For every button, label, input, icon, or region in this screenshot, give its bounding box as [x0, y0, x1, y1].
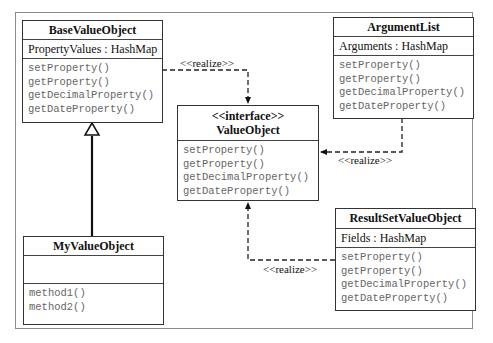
method: getProperty() [28, 76, 162, 90]
attribute: Arguments : HashMap [339, 39, 448, 53]
realize-base-to-valueobject [162, 70, 248, 103]
realize-label: <<realize>> [180, 57, 234, 69]
method: getProperty() [341, 265, 475, 279]
class-methods: method1() method2() [24, 284, 163, 314]
class-attributes-empty [24, 256, 163, 284]
class-name: ArgumentList [334, 18, 473, 37]
class-name: ResultSetValueObject [336, 209, 475, 229]
method: getDateProperty() [341, 292, 475, 306]
method: getDateProperty() [339, 100, 473, 114]
class-result-set-value-object[interactable]: ResultSetValueObject Fields : HashMap se… [335, 208, 476, 311]
stereotype: <<interface>> [178, 109, 318, 123]
realize-argumentlist-to-valueobject [321, 118, 402, 152]
class-methods: setProperty() getProperty() getDecimalPr… [23, 59, 162, 116]
attribute: Fields : HashMap [341, 231, 426, 245]
method: getProperty() [339, 73, 473, 87]
method: getDecimalProperty() [183, 171, 318, 185]
class-name: MyValueObject [24, 237, 163, 256]
class-argument-list[interactable]: ArgumentList Arguments : HashMap setProp… [333, 17, 474, 119]
class-methods: setProperty() getProperty() getDecimalPr… [336, 248, 475, 305]
method: setProperty() [183, 144, 318, 158]
generalization-triangle-icon [85, 123, 99, 135]
class-my-value-object[interactable]: MyValueObject method1() method2() [23, 236, 164, 325]
realize-resultset-to-valueobject [248, 203, 335, 260]
method: getDecimalProperty() [28, 89, 162, 103]
class-attributes: PropertyValues : HashMap [23, 40, 162, 59]
method: getDecimalProperty() [341, 278, 475, 292]
interface-value-object[interactable]: <<interface>> ValueObject setProperty() … [177, 105, 319, 201]
method: setProperty() [341, 251, 475, 265]
class-base-value-object[interactable]: BaseValueObject PropertyValues : HashMap… [22, 20, 163, 123]
method: getDecimalProperty() [339, 86, 473, 100]
class-attributes: Fields : HashMap [336, 229, 475, 248]
method: getDateProperty() [183, 185, 318, 199]
realize-label: <<realize>> [338, 154, 392, 166]
method: setProperty() [28, 62, 162, 76]
method: setProperty() [339, 59, 473, 73]
interface-header: <<interface>> ValueObject [178, 106, 318, 141]
method: method2() [29, 301, 163, 315]
method: method1() [29, 287, 163, 301]
class-attributes: Arguments : HashMap [334, 37, 473, 56]
class-methods: setProperty() getProperty() getDecimalPr… [178, 141, 318, 198]
class-methods: setProperty() getProperty() getDecimalPr… [334, 56, 473, 113]
class-name: ValueObject [178, 123, 318, 137]
realize-label: <<realize>> [263, 263, 317, 275]
method: getProperty() [183, 158, 318, 172]
method: getDateProperty() [28, 103, 162, 117]
class-name: BaseValueObject [23, 21, 162, 40]
attribute: PropertyValues : HashMap [28, 42, 157, 56]
